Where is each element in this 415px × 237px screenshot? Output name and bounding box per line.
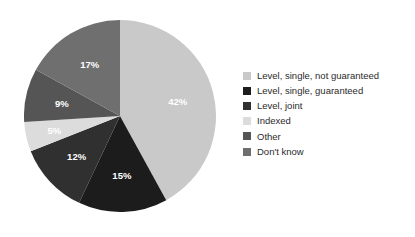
legend-swatch-icon [243,102,251,110]
legend-item-label: Level, joint [257,101,302,111]
pie-chart-plot-area: 42%15%12%5%9%17% [24,19,216,213]
pie-slice-label: 12% [67,151,87,162]
legend-item[interactable]: Other [243,129,413,144]
legend-swatch-icon [243,132,251,140]
legend-item[interactable]: Level, joint [243,98,413,113]
legend-swatch-icon [243,87,251,95]
legend-item[interactable]: Level, single, not guaranteed [243,68,413,83]
legend-swatch-icon [243,72,251,80]
legend-item-label: Other [257,132,281,142]
legend-item-label: Don't know [257,147,304,157]
chart-legend: Level, single, not guaranteedLevel, sing… [243,68,413,159]
legend-item-label: Level, single, guaranteed [257,86,363,96]
pie-slice-group [24,20,216,212]
legend-item[interactable]: Indexed [243,114,413,129]
legend-swatch-icon [243,148,251,156]
legend-item-label: Level, single, not guaranteed [257,71,379,81]
legend-item[interactable]: Don't know [243,144,413,159]
pie-slice-label: 5% [48,125,62,136]
pie-slice-label: 17% [80,59,100,70]
pie-chart-figure: 42%15%12%5%9%17% Level, single, not guar… [0,0,415,237]
legend-item[interactable]: Level, single, guaranteed [243,83,413,98]
pie-slice-label: 42% [168,96,188,107]
pie-slice-label: 9% [55,98,69,109]
pie-chart-svg: 42%15%12%5%9%17% [24,19,216,213]
legend-swatch-icon [243,117,251,125]
pie-slice-label: 15% [112,170,132,181]
legend-item-label: Indexed [257,116,291,126]
